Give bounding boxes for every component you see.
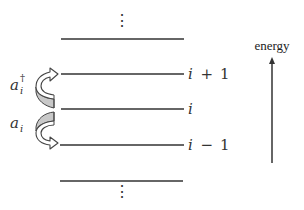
label-var: i (188, 65, 193, 83)
label-num: 1 (220, 65, 230, 83)
label-num: 1 (220, 136, 230, 154)
label-op: − (201, 136, 214, 154)
svg-text:i + 1: i + 1 (188, 65, 229, 83)
op-subscript: i (20, 123, 23, 134)
op-subscript: i (20, 85, 23, 96)
op-base: a (10, 76, 19, 94)
op-superscript: † (20, 72, 25, 83)
raising-arrow-icon (36, 68, 58, 108)
svg-text:i − 1: i − 1 (188, 136, 229, 154)
energy-axis-label: energy (254, 38, 290, 53)
ellipsis-top: ⋮ (114, 11, 130, 30)
level-label-i-minus-1: i − 1 (188, 136, 229, 154)
energy-axis-arrow-icon (269, 57, 275, 163)
level-label-i: i (188, 100, 193, 118)
label-var: i (188, 100, 193, 118)
level-label-i-plus-1: i + 1 (188, 65, 229, 83)
lowering-operator-label: a i (10, 114, 23, 134)
energy-level-diagram: ⋮ i + 1 i i − 1 ⋮ (0, 0, 304, 210)
label-op: + (201, 65, 214, 83)
raising-operator-label: a i † (10, 72, 25, 96)
op-base: a (10, 114, 19, 132)
ellipsis-bottom: ⋮ (114, 182, 130, 201)
lowering-arrow-icon (36, 112, 58, 149)
label-var: i (188, 136, 193, 154)
svg-text:i: i (188, 100, 193, 118)
